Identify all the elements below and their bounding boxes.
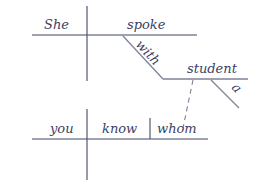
- sentence-diagram: She spoke with student a you know whom: [0, 0, 259, 180]
- word-relative-verb: know: [102, 121, 137, 136]
- word-relative-object: whom: [157, 121, 197, 136]
- word-object: student: [187, 61, 238, 76]
- word-verb: spoke: [127, 17, 166, 32]
- word-preposition: with: [133, 37, 164, 68]
- word-article: a: [229, 80, 245, 96]
- word-subject: She: [44, 17, 69, 32]
- word-relative-subject: you: [49, 121, 74, 136]
